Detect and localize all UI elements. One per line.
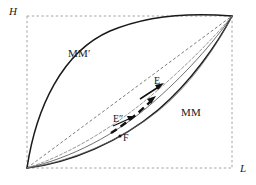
curve-label-mm-prime: MM′: [68, 48, 91, 59]
point-label-f: F: [123, 133, 129, 143]
axis-label-l: L: [240, 163, 246, 174]
guide-diagonal: [27, 16, 232, 168]
curve-label-mm: MM: [181, 107, 201, 118]
diagram-canvas: H L MM′ MM E E″ F: [0, 0, 256, 185]
point-label-e: E: [154, 76, 160, 86]
point-label-e-double-prime: E″: [113, 114, 123, 124]
point-dot-f: [119, 135, 122, 138]
axis-label-h: H: [9, 6, 17, 17]
diagram-vector: [0, 0, 256, 185]
